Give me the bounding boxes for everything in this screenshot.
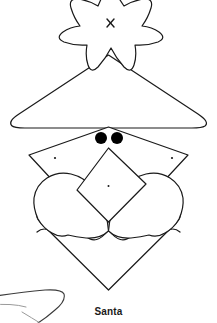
left-eye-icon bbox=[95, 132, 107, 144]
right-eye-icon bbox=[111, 132, 123, 144]
nose-center-dot bbox=[108, 185, 110, 187]
left-cheek-dot bbox=[54, 157, 56, 159]
figure-caption: Santa bbox=[0, 306, 217, 318]
santa-line-drawing bbox=[0, 0, 217, 323]
right-cheek-dot bbox=[171, 157, 173, 159]
hat-triangle bbox=[11, 55, 207, 128]
